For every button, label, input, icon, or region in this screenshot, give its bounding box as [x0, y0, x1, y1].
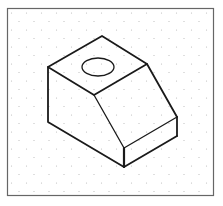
- dot-grid: [8, 9, 213, 195]
- isometric-drawing: [0, 0, 223, 206]
